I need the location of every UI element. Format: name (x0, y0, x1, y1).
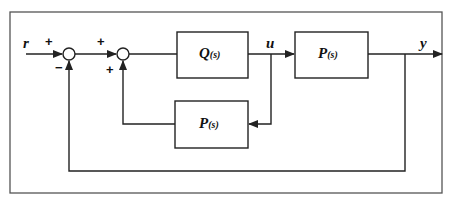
sum2-plus-sign-bottom: + (106, 63, 114, 76)
u-tap-to-model (249, 54, 271, 124)
p-model-label: P(s) (199, 116, 219, 131)
q-block-arg: (s) (210, 49, 221, 60)
signal-label-y: y (420, 36, 427, 51)
sum1-plus-sign: + (45, 35, 53, 48)
q-block-name: Q (199, 45, 210, 61)
p-plant-arg: (s) (327, 49, 338, 60)
summing-junction-2 (117, 48, 129, 60)
block-diagram-canvas (0, 0, 461, 201)
p-plant-label: P(s) (318, 46, 338, 61)
p-plant-name: P (318, 45, 327, 61)
model-to-sum2-feedback (123, 61, 175, 124)
p-model-name: P (199, 115, 208, 131)
p-model-arg: (s) (208, 119, 219, 130)
signal-label-u: u (266, 36, 274, 51)
signal-label-r: r (23, 36, 29, 51)
q-block-label: Q(s) (199, 46, 220, 61)
summing-junction-1 (63, 48, 75, 60)
sum2-plus-sign-top: + (97, 35, 105, 48)
sum1-minus-sign: − (55, 61, 63, 74)
